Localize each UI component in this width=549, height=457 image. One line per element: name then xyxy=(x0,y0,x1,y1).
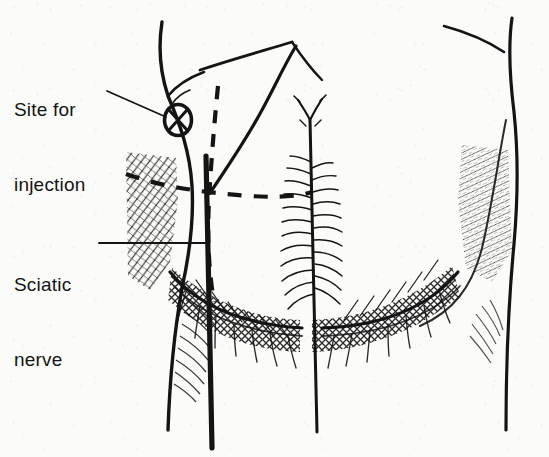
circled-x-marker xyxy=(165,105,192,136)
leader-line-injection xyxy=(107,91,166,117)
marker-x-cross xyxy=(170,111,187,130)
gluteal-cleft xyxy=(281,95,342,432)
sciatic-nerve-path xyxy=(206,156,212,448)
label-site-for-injection-line1: Site for xyxy=(14,97,86,122)
label-sciatic-nerve-line2: nerve xyxy=(14,347,71,372)
shading-right-thigh xyxy=(470,300,503,363)
injection-site-figure: Site for injection Sciatic nerve xyxy=(0,0,549,457)
label-sciatic-nerve: Sciatic nerve xyxy=(14,222,71,422)
label-site-for-injection: Site for injection xyxy=(14,47,86,247)
label-site-for-injection-line2: injection xyxy=(14,172,86,197)
label-sciatic-nerve-line1: Sciatic xyxy=(14,272,71,297)
